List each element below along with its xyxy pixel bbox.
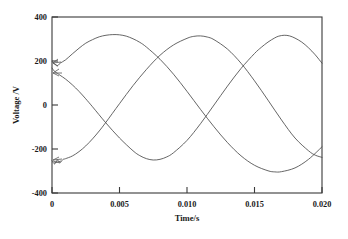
x-axis-ticks — [52, 187, 322, 193]
y-axis-title: Voltage /V — [11, 85, 21, 124]
voltage-time-line-chart: 400 200 0 -200 -400 0 0.005 0.010 0.015 … — [0, 0, 348, 239]
x-tick-label-0015: 0.015 — [245, 200, 264, 209]
startup-transient-marks — [53, 59, 62, 163]
plot-frame — [52, 17, 322, 193]
x-tick-label-0005: 0.005 — [110, 200, 129, 209]
y-tick-label-400: 400 — [35, 13, 47, 22]
x-axis-title: Time/s — [175, 213, 200, 223]
y-tick-label-200: 200 — [35, 57, 47, 66]
x-tick-label-0020: 0.020 — [313, 200, 332, 209]
series-group — [52, 35, 322, 173]
x-tick-label-0010: 0.010 — [178, 200, 197, 209]
chart-figure: 400 200 0 -200 -400 0 0.005 0.010 0.015 … — [0, 0, 348, 239]
x-tick-label-0: 0 — [50, 200, 54, 209]
y-axis-ticks — [52, 17, 58, 193]
series-phase-b — [52, 35, 322, 160]
y-tick-label-minus200: -200 — [32, 145, 47, 154]
series-phase-c — [52, 36, 322, 164]
y-tick-label-minus400: -400 — [32, 189, 47, 198]
y-tick-label-0: 0 — [43, 101, 47, 110]
series-phase-a — [52, 35, 322, 173]
